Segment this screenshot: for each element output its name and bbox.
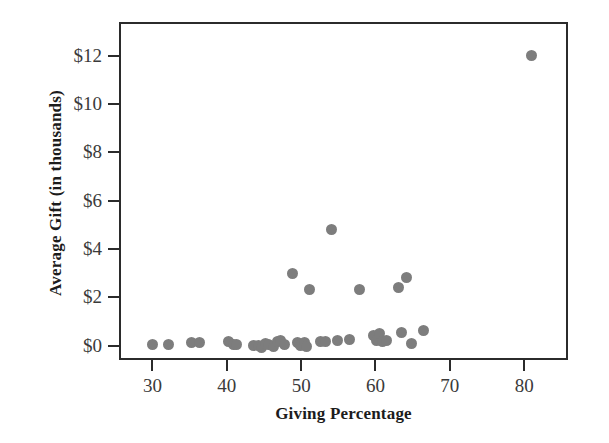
- y-axis-tick-label: $2: [40, 287, 102, 306]
- scatter-plot-figure: Average Gift (in thousands) $0$2$4$6$8$1…: [0, 0, 609, 443]
- x-axis-title: Giving Percentage: [119, 404, 568, 424]
- y-axis-tick-label: $0: [40, 336, 102, 355]
- x-axis-tick: [523, 360, 525, 371]
- x-axis-tick-label: 40: [202, 376, 252, 395]
- data-point: [287, 268, 298, 279]
- y-axis-tick-label: $4: [40, 239, 102, 258]
- y-axis-tick: [108, 103, 119, 105]
- data-point: [332, 335, 343, 346]
- data-point: [406, 338, 417, 349]
- x-axis-tick: [449, 360, 451, 371]
- data-point: [396, 327, 407, 338]
- data-point: [401, 272, 412, 283]
- data-point: [301, 341, 312, 352]
- y-axis-tick-label: $8: [40, 142, 102, 161]
- data-point: [231, 339, 242, 350]
- data-point: [393, 282, 404, 293]
- y-axis-tick: [108, 200, 119, 202]
- data-point: [526, 50, 537, 61]
- y-axis-tick: [108, 151, 119, 153]
- data-point: [304, 284, 315, 295]
- y-axis-tick-label: $6: [40, 191, 102, 210]
- x-axis-tick-label: 70: [425, 376, 475, 395]
- data-point: [354, 284, 365, 295]
- x-axis-tick: [226, 360, 228, 371]
- x-axis-tick-label: 60: [350, 376, 400, 395]
- y-axis-tick: [108, 55, 119, 57]
- plot-frame: [119, 22, 568, 360]
- y-axis-tick: [108, 248, 119, 250]
- data-point: [147, 339, 158, 350]
- x-axis-tick: [374, 360, 376, 371]
- data-point: [418, 325, 429, 336]
- data-point: [381, 335, 392, 346]
- data-point: [344, 334, 355, 345]
- plot-data-area: [121, 24, 566, 358]
- x-axis-tick-label: 50: [276, 376, 326, 395]
- y-axis-tick-label: $12: [40, 46, 102, 65]
- x-axis-tick: [300, 360, 302, 371]
- data-point: [163, 339, 174, 350]
- y-axis-tick-label: $10: [40, 94, 102, 113]
- y-axis-tick: [108, 296, 119, 298]
- data-point: [194, 337, 205, 348]
- x-axis-tick-label: 80: [499, 376, 549, 395]
- x-axis-tick-label: 30: [127, 376, 177, 395]
- data-point: [320, 336, 331, 347]
- y-axis-tick: [108, 345, 119, 347]
- x-axis-tick: [151, 360, 153, 371]
- data-point: [326, 224, 337, 235]
- data-point: [279, 339, 290, 350]
